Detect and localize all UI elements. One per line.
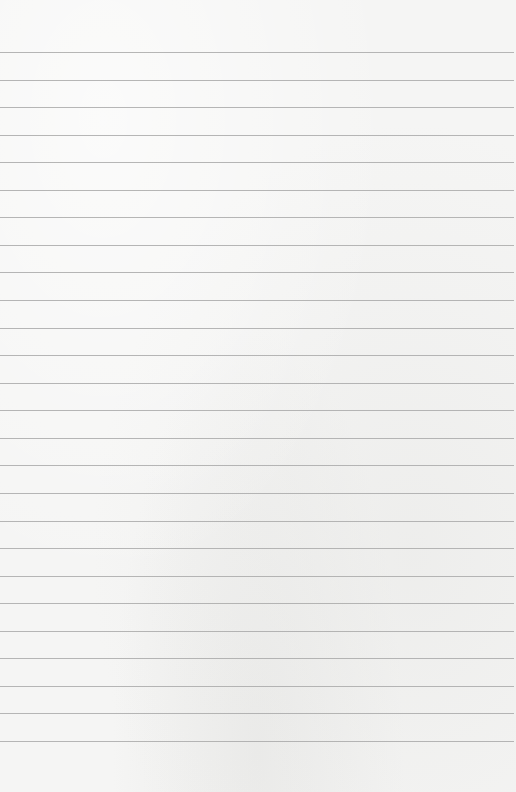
ruled-line	[0, 245, 514, 246]
ruled-line	[0, 410, 514, 411]
ruled-line	[0, 548, 514, 549]
ruled-line	[0, 438, 514, 439]
ruled-line	[0, 465, 514, 466]
ruled-line	[0, 328, 514, 329]
ruled-line	[0, 135, 514, 136]
ruled-line	[0, 300, 514, 301]
ruled-line	[0, 190, 514, 191]
ruled-line	[0, 162, 514, 163]
ruled-line	[0, 493, 514, 494]
ruled-line	[0, 80, 514, 81]
ruled-line	[0, 713, 514, 714]
ruled-line	[0, 355, 514, 356]
ruled-line	[0, 521, 514, 522]
ruled-line	[0, 576, 514, 577]
ruled-line	[0, 741, 514, 742]
ruled-line	[0, 217, 514, 218]
ruled-line	[0, 272, 514, 273]
ruled-line	[0, 383, 514, 384]
ruled-line	[0, 631, 514, 632]
ruled-line	[0, 107, 514, 108]
lined-paper-sheet	[0, 0, 516, 792]
ruled-line	[0, 52, 514, 53]
ruled-line	[0, 603, 514, 604]
ruled-line	[0, 658, 514, 659]
ruled-line	[0, 686, 514, 687]
